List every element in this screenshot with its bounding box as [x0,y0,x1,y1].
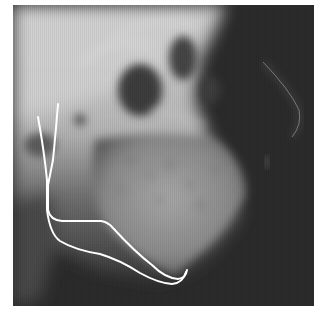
xray-image [13,5,314,306]
scan-texture [13,5,314,306]
xray-render [13,5,314,306]
